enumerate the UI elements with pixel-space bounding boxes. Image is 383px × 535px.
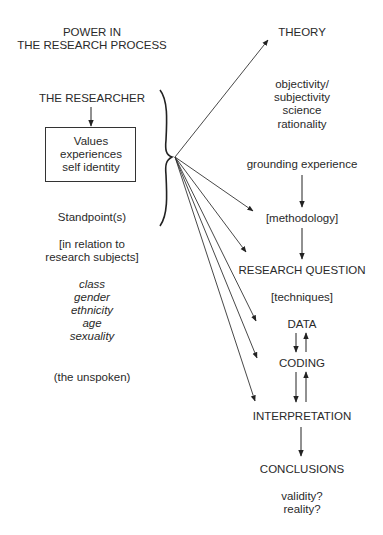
- theory-term-science: science: [283, 104, 322, 117]
- arrow-to-research-question: [175, 157, 246, 252]
- methodology-label: [methodology]: [266, 212, 338, 225]
- data-label: DATA: [288, 318, 317, 331]
- relation-line-1: [in relation to: [59, 238, 125, 251]
- reality-label: reality?: [283, 503, 320, 516]
- box-line-self-identity: self identity: [62, 161, 120, 174]
- researcher-label: THE RESEARCHER: [39, 92, 145, 105]
- arrow-to-coding: [175, 157, 257, 358]
- dimension-class: class: [79, 278, 105, 291]
- theory-term-rationality: rationality: [277, 118, 326, 131]
- dimension-ethnicity: ethnicity: [71, 304, 113, 317]
- research-question-label: RESEARCH QUESTION: [238, 264, 365, 277]
- techniques-label: [techniques]: [271, 291, 333, 304]
- arrow-to-theory: [175, 40, 268, 157]
- theory-term-subjectivity: subjectivity: [274, 91, 330, 104]
- arrow-to-methodology: [175, 157, 253, 211]
- coding-label: CODING: [279, 357, 325, 370]
- arrow-to-data: [175, 157, 256, 321]
- dimension-gender: gender: [74, 291, 110, 304]
- fan-arrows: [175, 40, 268, 401]
- box-line-values: Values: [74, 135, 108, 148]
- grounding-label: grounding experience: [247, 158, 358, 171]
- title-line-2: THE RESEARCH PROCESS: [17, 39, 167, 52]
- validity-label: validity?: [281, 490, 323, 503]
- relation-line-2: research subjects]: [45, 251, 138, 264]
- unspoken-label: (the unspoken): [54, 371, 131, 384]
- conclusions-label: CONCLUSIONS: [260, 463, 344, 476]
- theory-term-objectivity: objectivity/: [275, 78, 329, 91]
- dimension-age: age: [82, 317, 101, 330]
- interpretation-label: INTERPRETATION: [253, 410, 352, 423]
- arrow-to-interpretation: [175, 157, 255, 401]
- theory-label: THEORY: [278, 26, 326, 39]
- dimension-sexuality: sexuality: [70, 330, 115, 343]
- box-line-experiences: experiences: [60, 148, 122, 161]
- curly-brace: [160, 90, 172, 226]
- title-line-1: POWER IN: [63, 26, 121, 39]
- standpoint-label: Standpoint(s): [58, 211, 126, 224]
